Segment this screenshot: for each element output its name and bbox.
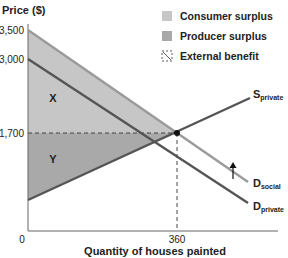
legend-label-consumer-surplus: Consumer surplus xyxy=(180,10,273,22)
legend-label-producer-surplus: Producer surplus xyxy=(180,30,267,42)
x-tick-360: 360 xyxy=(169,234,186,245)
y-axis-title: Price ($) xyxy=(2,4,46,16)
surplus-chart: X Y Price ($) Quantity of houses painted… xyxy=(0,0,288,258)
origin-label: 0 xyxy=(19,234,25,245)
x-axis-title: Quantity of houses painted xyxy=(84,245,226,257)
legend-swatch-consumer-surplus xyxy=(162,11,172,21)
d-private-label: Dprivate xyxy=(253,200,284,214)
legend-label-external-benefit: External benefit xyxy=(180,50,259,62)
legend: Consumer surplus Producer surplus Extern… xyxy=(162,10,273,62)
y-tick-3500: 3,500 xyxy=(0,25,24,36)
y-tick-3000: 3,000 xyxy=(0,54,24,65)
s-private-label: Sprivate xyxy=(253,88,283,102)
equilibrium-point xyxy=(174,130,180,136)
region-label-x: X xyxy=(49,92,57,104)
legend-swatch-producer-surplus xyxy=(162,31,172,41)
external-benefit-swatch-icon xyxy=(162,51,172,61)
d-social-label: Dsocial xyxy=(253,177,281,190)
y-tick-1700: 1,700 xyxy=(0,128,24,139)
region-label-y: Y xyxy=(49,153,57,165)
